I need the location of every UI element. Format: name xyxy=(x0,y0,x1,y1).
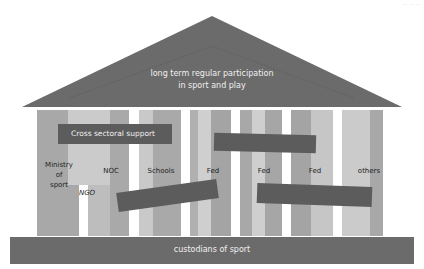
bar-upper-right xyxy=(214,133,316,154)
label-sport: sport xyxy=(42,180,76,190)
label-noc: NOC xyxy=(96,166,126,176)
label-of: of xyxy=(42,170,76,180)
label-fed-1: Fed xyxy=(200,166,226,176)
label-ngo: NGO xyxy=(72,188,102,198)
roof-title-line-1: long term regular participation xyxy=(112,68,312,79)
label-schools: Schools xyxy=(141,166,181,176)
label-fed-2: Fed xyxy=(251,166,277,176)
label-others: others xyxy=(352,166,386,176)
label-ministry: Ministry xyxy=(42,160,76,170)
bar-lower-right xyxy=(257,183,373,207)
base-plinth: custodians of sport xyxy=(10,237,414,264)
label-fed-3: Fed xyxy=(302,166,328,176)
roof-triangle xyxy=(0,0,424,110)
base-label: custodians of sport xyxy=(10,245,414,254)
roof-title-line-2: in sport and play xyxy=(112,80,312,91)
bar-cross-sectoral-support: Cross sectoral support xyxy=(58,124,172,144)
